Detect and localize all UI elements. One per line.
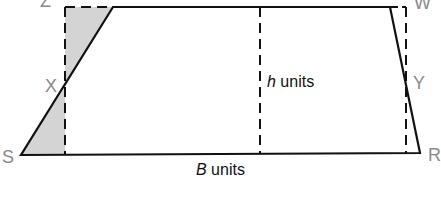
height-variable: h: [267, 73, 276, 90]
base-unit: units: [207, 161, 245, 178]
base-label: B units: [196, 162, 245, 178]
vertex-label-y: Y: [413, 74, 425, 92]
vertex-label-w: W: [414, 0, 431, 12]
height-unit: units: [276, 73, 314, 90]
vertex-label-s: S: [2, 148, 14, 166]
vertex-label-z: Z: [40, 0, 51, 10]
vertex-label-x: X: [45, 77, 57, 95]
height-label: h units: [267, 74, 314, 90]
base-variable: B: [196, 161, 207, 178]
vertex-label-r: R: [428, 146, 441, 164]
